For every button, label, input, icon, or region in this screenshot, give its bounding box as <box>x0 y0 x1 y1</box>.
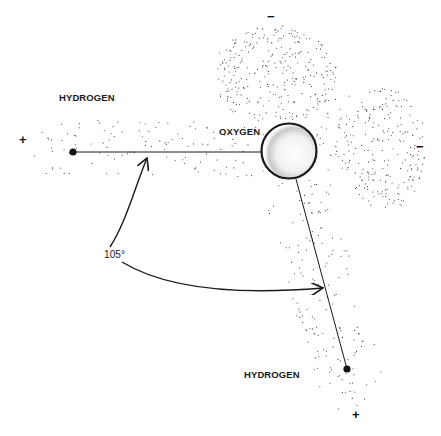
electron-cloud <box>34 25 425 409</box>
plus-sign-left: + <box>19 133 27 146</box>
oxygen-atom <box>262 124 317 179</box>
water-molecule-diagram: HYDROGEN OXYGEN 105° HYDROGEN + + − − <box>0 0 441 436</box>
molecule-illustration <box>0 0 441 436</box>
minus-sign-right: − <box>416 140 424 153</box>
hydrogen-nucleus-lower <box>343 365 350 372</box>
hydrogen-lower-label: HYDROGEN <box>244 369 300 380</box>
oxygen-label: OXYGEN <box>219 126 260 137</box>
hydrogen-nucleus-left <box>69 148 76 155</box>
hydrogen-left-label: HYDROGEN <box>59 92 115 103</box>
minus-sign-top: − <box>267 10 275 23</box>
plus-sign-bottom: + <box>352 408 360 421</box>
angle-arc-lower <box>122 262 323 291</box>
angle-arc-upper <box>110 158 147 247</box>
bond-line-lower <box>296 179 347 369</box>
bond-angle-label: 105° <box>104 249 125 260</box>
